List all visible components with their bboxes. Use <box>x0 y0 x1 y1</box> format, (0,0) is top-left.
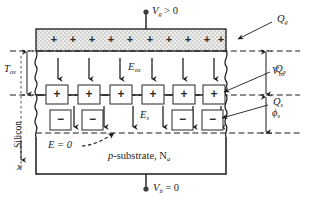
oxide-thickness-dimension <box>22 51 33 95</box>
zero-field-pointer <box>82 133 114 146</box>
gate-plus-3: + <box>87 34 98 45</box>
interface-plus-3: + <box>115 88 127 100</box>
depletion-minus-3: − <box>177 113 189 125</box>
mos-capacitor-figure: Vg > 0 Qg Qo Qs Tox Vox ϕs Eox Es E = 0 … <box>0 0 312 201</box>
oxide-voltage-dimension <box>261 51 272 95</box>
interface-plus-6: + <box>208 88 220 100</box>
gate-bias-label: Vg > 0 <box>152 6 178 17</box>
depletion-minus-2: − <box>87 113 99 125</box>
oxide-thickness-label: Tox <box>4 64 16 75</box>
substrate-label: p-substrate, Na <box>108 151 170 162</box>
gate-plus-2: + <box>68 34 79 45</box>
surface-potential-label: ϕs <box>272 108 280 119</box>
depletion-minus-1: − <box>55 113 67 125</box>
gate-plus-7: + <box>164 34 175 45</box>
body-bias-label: Vb = 0 <box>153 183 179 194</box>
interface-plus-1: + <box>51 88 63 100</box>
zero-field-label: E = 0 <box>48 140 72 151</box>
gate-terminal <box>143 9 148 29</box>
gate-plus-5: + <box>125 34 136 45</box>
gate-plus-10: + <box>216 34 227 45</box>
gate-plus-9: + <box>202 34 213 45</box>
silicon-side-label: Silicon <box>14 121 24 148</box>
gate-plus-6: + <box>145 34 156 45</box>
interface-plus-5: + <box>178 88 190 100</box>
depletion-minus-4: − <box>207 113 219 125</box>
leader-lines <box>222 22 272 118</box>
depletion-charge-boxes <box>50 110 223 130</box>
interface-plus-2: + <box>83 88 95 100</box>
surface-charge-label: Qs <box>273 97 283 108</box>
gate-plus-4: + <box>106 34 117 45</box>
gate-charge-label: Qg <box>277 14 288 25</box>
gate-plus-8: + <box>183 34 194 45</box>
body-terminal <box>143 174 148 192</box>
oxide-field-label: Eox <box>128 62 141 73</box>
surface-potential-dimension <box>261 97 272 133</box>
silicon-field-label: Es <box>140 110 149 121</box>
oxide-voltage-label: Vox <box>272 66 285 77</box>
depth-axis-label: x <box>17 162 22 173</box>
gate-plus-1: + <box>49 34 60 45</box>
interface-plus-4: + <box>147 88 159 100</box>
